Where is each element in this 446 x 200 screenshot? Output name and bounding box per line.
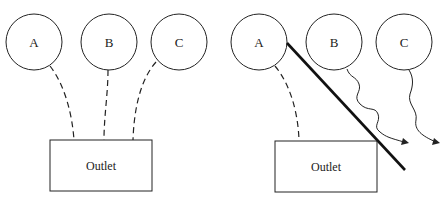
node-a-label: A <box>29 35 39 50</box>
arrowhead-c <box>432 138 440 145</box>
node-c-label: C <box>400 35 409 50</box>
outlet-label: Outlet <box>311 160 342 174</box>
wavy-arrow-c <box>409 70 436 142</box>
node-b-label: B <box>330 35 339 50</box>
arrowhead-b <box>401 138 409 145</box>
node-b-label: B <box>105 35 114 50</box>
node-c-label: C <box>175 35 184 50</box>
dashed-link-a-outlet <box>275 66 299 140</box>
dashed-link-a-outlet <box>50 66 74 140</box>
wavy-arrow-b <box>347 69 404 142</box>
left-panel: A B C Outlet <box>6 14 207 191</box>
barrier-line <box>287 43 405 170</box>
node-a-label: A <box>254 35 264 50</box>
diagram: A B C Outlet A B C Outlet <box>0 0 446 200</box>
dashed-link-c-outlet <box>133 62 156 140</box>
right-panel: A B C Outlet <box>231 14 440 192</box>
outlet-label: Outlet <box>86 159 117 173</box>
dashed-link-b-outlet <box>104 70 108 140</box>
